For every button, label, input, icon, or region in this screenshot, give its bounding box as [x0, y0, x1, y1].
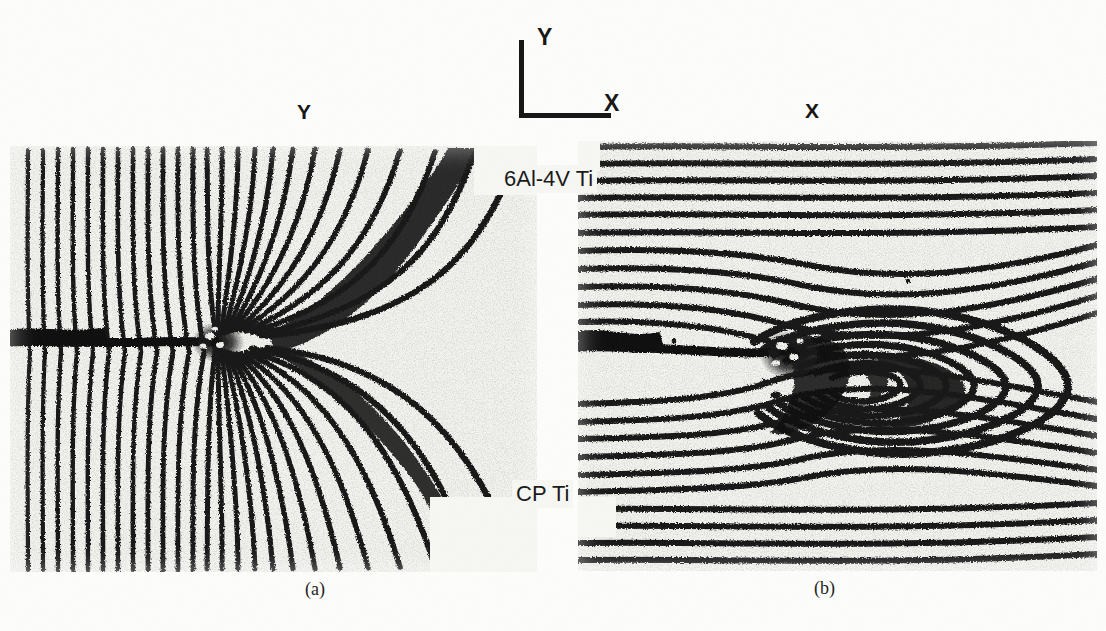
subfigure-caption-a: (a)	[305, 579, 325, 600]
panel-b-field-letter: X	[805, 99, 819, 123]
axis-x-bar	[519, 113, 611, 118]
axis-x-label: X	[604, 90, 619, 117]
subfigure-caption-b: (b)	[814, 578, 835, 599]
axis-y-bar	[519, 40, 524, 118]
panel-b-moire-photograph	[578, 141, 1097, 571]
panel-a-label-notch-bottom	[430, 497, 537, 572]
specimen-label-cp-ti: CP Ti	[512, 480, 573, 508]
panel-b-fringes	[578, 141, 1097, 571]
axis-y-label: Y	[537, 24, 552, 51]
cut-off-text-bottom	[318, 620, 1078, 631]
panel-a-field-letter: Y	[297, 100, 311, 124]
specimen-label-6al4v-ti: 6Al-4V Ti	[500, 165, 597, 193]
panel-b-label-notch-bottom	[578, 497, 616, 537]
coordinate-axes-key: Y X	[497, 24, 627, 124]
cut-off-text-top	[183, 0, 883, 9]
